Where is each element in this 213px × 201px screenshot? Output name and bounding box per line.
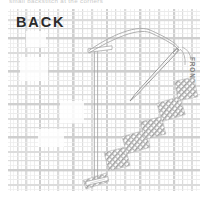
needle-and-stitches <box>0 0 213 201</box>
stitch-diagram-figure: small backstitch at the corners BACK FRO… <box>0 0 213 201</box>
stitch-overlay <box>0 0 213 201</box>
sewing-needle <box>129 48 179 102</box>
stitch-block-6 <box>174 77 198 101</box>
